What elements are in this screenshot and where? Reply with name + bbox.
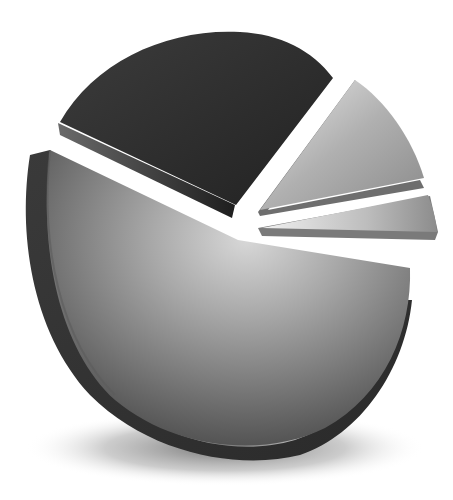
pie-chart-illustration: 3D exploded pie chart illustration bbox=[0, 0, 453, 500]
